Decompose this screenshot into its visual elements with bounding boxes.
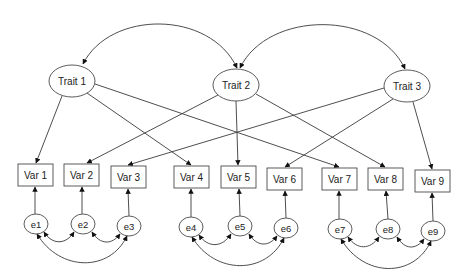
error-paths [35, 187, 433, 221]
path-e5-var5 [239, 189, 240, 216]
covariance-e8-e9 [397, 237, 424, 247]
error-node-9[interactable]: e9 [421, 221, 445, 241]
error-label: e3 [124, 221, 135, 232]
trait-nodes: Trait 1 Trait 2 Trait 3 [49, 65, 430, 102]
error-node-3[interactable]: e3 [117, 216, 141, 236]
covariance-e1-e3 [37, 234, 127, 263]
covariance-e5-e6 [249, 234, 277, 244]
covariance-arc-trait2-trait3 [240, 25, 405, 69]
path-e3-var3 [128, 189, 129, 216]
variable-node-1[interactable]: Var 1 [18, 164, 53, 186]
covariance-e4-e5 [199, 234, 231, 245]
trait-label: Trait 1 [58, 76, 86, 87]
error-node-1[interactable]: e1 [24, 214, 48, 234]
error-nodes: e1 e2 e3 e4 e5 e6 e7 e8 [24, 214, 445, 241]
trait-label: Trait 2 [222, 80, 250, 91]
variable-node-6[interactable]: Var 6 [267, 168, 302, 190]
covariance-e4-e6 [192, 237, 284, 266]
trait-node-3[interactable]: Trait 3 [384, 70, 430, 102]
trait-label: Trait 3 [393, 81, 421, 92]
covariance-e7-e8 [348, 237, 379, 247]
variable-label: Var 1 [24, 170, 48, 181]
variable-label: Var 6 [273, 174, 297, 185]
error-label: e9 [428, 226, 439, 237]
variable-node-3[interactable]: Var 3 [111, 166, 146, 188]
error-label: e5 [235, 221, 246, 232]
variable-node-5[interactable]: Var 5 [221, 166, 256, 188]
loading-trait3-var6 [285, 99, 393, 167]
error-node-7[interactable]: e7 [328, 219, 352, 239]
variable-node-2[interactable]: Var 2 [64, 164, 99, 186]
error-node-5[interactable]: e5 [228, 216, 252, 236]
loading-trait2-var8 [256, 94, 385, 167]
loading-trait2-var2 [87, 95, 218, 163]
loading-trait1-var7 [95, 84, 339, 167]
variable-node-7[interactable]: Var 7 [322, 168, 357, 190]
error-node-8[interactable]: e8 [376, 219, 400, 239]
loading-trait1-var4 [87, 93, 191, 165]
covariance-e1-e2 [44, 232, 74, 242]
error-label: e4 [186, 222, 197, 233]
variable-label: Var 3 [117, 172, 141, 183]
error-node-4[interactable]: e4 [179, 217, 203, 237]
error-label: e1 [31, 219, 42, 230]
variable-label: Var 8 [374, 174, 398, 185]
sem-diagram: Trait 1 Trait 2 Trait 3 Var 1 Var 2 Var … [0, 0, 466, 277]
variable-nodes: Var 1 Var 2 Var 3 Var 4 Var 5 Var 6 Var … [18, 164, 450, 192]
path-e6-var6 [285, 191, 286, 218]
variable-label: Var 7 [328, 174, 352, 185]
error-covariances [37, 232, 431, 269]
variable-label: Var 5 [227, 172, 251, 183]
error-label: e6 [281, 223, 292, 234]
error-label: e7 [335, 224, 346, 235]
path-e9-var9 [432, 193, 433, 221]
path-e8-var8 [386, 191, 388, 219]
variable-label: Var 4 [180, 172, 204, 183]
variable-label: Var 9 [421, 176, 445, 187]
covariance-e2-e3 [92, 232, 120, 242]
covariance-arc-trait1-trait2 [83, 24, 237, 68]
trait-node-1[interactable]: Trait 1 [49, 65, 95, 97]
error-node-6[interactable]: e6 [274, 218, 298, 238]
variable-label: Var 2 [70, 170, 94, 181]
loading-trait3-var3 [128, 88, 384, 165]
loading-trait3-var9 [413, 102, 432, 169]
error-node-2[interactable]: e2 [71, 214, 95, 234]
error-label: e2 [78, 219, 89, 230]
variable-node-8[interactable]: Var 8 [368, 168, 403, 190]
variable-node-9[interactable]: Var 9 [415, 170, 450, 192]
loading-trait1-var1 [36, 96, 62, 163]
trait-covariances [83, 24, 405, 69]
variable-node-4[interactable]: Var 4 [174, 166, 209, 188]
error-label: e8 [383, 224, 394, 235]
trait-node-2[interactable]: Trait 2 [213, 69, 259, 101]
